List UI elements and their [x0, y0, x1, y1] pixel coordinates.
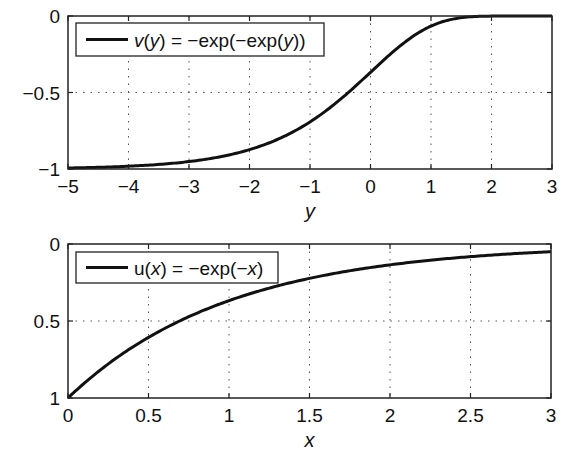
x-tick-label: 1: [426, 176, 437, 197]
y-tick-label: −0.5: [22, 83, 60, 104]
legend: u(x) = −exp(−x): [76, 252, 278, 283]
top-plot-v-of-y: −5−4−3−2−101230−0.5−1yv(y) = −exp(−exp(y…: [22, 6, 557, 222]
x-tick-label: −4: [118, 176, 140, 197]
x-tick-label: 2: [486, 176, 497, 197]
x-tick-label: 0.5: [135, 405, 161, 426]
y-tick-label: 0: [49, 234, 60, 255]
x-tick-label: 1: [224, 405, 235, 426]
y-tick-label: 0.5: [34, 311, 60, 332]
x-axis-label: x: [304, 429, 316, 451]
x-tick-label: 2: [385, 405, 396, 426]
x-tick-label: 3: [546, 405, 557, 426]
x-tick-label: −3: [178, 176, 200, 197]
y-tick-label: −1: [38, 159, 60, 180]
x-axis-label: y: [303, 200, 316, 222]
y-tick-label: 1: [49, 388, 60, 409]
x-tick-label: 0: [63, 405, 74, 426]
y-tick-label: 0: [49, 6, 60, 27]
x-tick-label: −2: [239, 176, 261, 197]
x-tick-label: 2.5: [457, 405, 483, 426]
x-tick-label: −1: [299, 176, 321, 197]
legend-label: u(x) = −exp(−x): [134, 258, 263, 279]
chart-figure: −5−4−3−2−101230−0.5−1yv(y) = −exp(−exp(y…: [0, 0, 574, 473]
legend-label: v(y) = −exp(−exp(y)): [134, 30, 306, 51]
x-tick-label: 1.5: [296, 405, 322, 426]
bottom-plot-u-of-x: 00.511.522.5300.51xu(x) = −exp(−x): [34, 234, 557, 451]
x-tick-label: 3: [547, 176, 558, 197]
x-tick-label: 0: [365, 176, 376, 197]
legend: v(y) = −exp(−exp(y)): [76, 23, 324, 56]
x-tick-label: −5: [57, 176, 79, 197]
